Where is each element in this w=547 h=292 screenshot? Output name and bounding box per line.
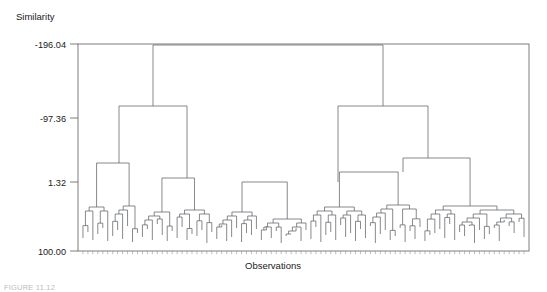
y-axis-tick-labels: -196.04 -97.36 1.32 100.00 — [35, 40, 66, 257]
leaf-tickmarks — [83, 251, 524, 254]
y-axis-tickmarks — [70, 44, 78, 251]
y-tick-label-3: 100.00 — [38, 247, 66, 257]
dendrogram-links — [83, 45, 524, 243]
figure-caption: FIGURE 11.12 — [4, 283, 55, 292]
y-axis-title: Similarity — [16, 11, 55, 22]
x-axis-title: Observations — [245, 260, 301, 271]
y-tick-label-1: -97.36 — [40, 114, 66, 124]
y-tick-label-2: 1.32 — [48, 178, 66, 188]
y-tick-label-0: -196.04 — [35, 40, 66, 50]
